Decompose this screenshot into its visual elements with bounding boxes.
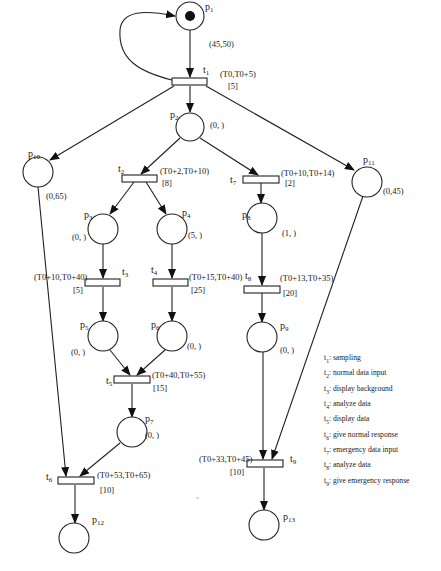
place-p4: [157, 214, 187, 244]
legend-item-t8: t8: analyze data: [324, 459, 410, 474]
duration-t6: [10]: [100, 485, 114, 495]
transition-t7: [243, 176, 279, 183]
interval-p4: (5, ): [188, 230, 202, 240]
window-t7: (T0+10,T0+14): [281, 168, 334, 178]
transition-t6: [58, 477, 94, 484]
legend-item-t5: t5: display data: [324, 413, 410, 428]
window-t6: (T0+53,T0+65): [97, 470, 150, 480]
window-t3: (T0+10,T0+40): [34, 272, 87, 282]
place-p2: [176, 113, 204, 141]
transition-t9: [247, 460, 283, 467]
place-p6: [157, 321, 187, 351]
place-p8: [247, 203, 277, 233]
arc-p10-t6: [38, 187, 66, 476]
duration-t1: [5]: [228, 81, 238, 91]
transition-legend: t1: sampling t2: normal data input t3: d…: [324, 352, 410, 490]
transition-t5: [114, 376, 150, 383]
window-t5: (T0+40,T0+55): [152, 370, 205, 380]
label-p9: p9: [280, 320, 289, 333]
duration-t8: [20]: [283, 288, 297, 298]
window-t1: (T0,T0+5): [220, 69, 256, 79]
window-t9: (T0+33,T0+45): [199, 454, 252, 464]
place-p9: [247, 322, 277, 352]
arc-t2-p3: [110, 182, 134, 214]
interval-p8: (1, ): [282, 228, 296, 238]
window-t4: (T0+15,T0+40): [189, 272, 242, 282]
interval-p3: (0, ): [72, 232, 86, 242]
interval-p2: (0, ): [210, 120, 224, 130]
label-p3: p3: [84, 209, 93, 222]
legend-item-t9: t9: give emergency response: [324, 475, 410, 490]
label-t6: t6: [46, 471, 53, 484]
token-icon: [185, 11, 195, 21]
legend-item-t1: t1: sampling: [324, 352, 410, 367]
label-t3: t3: [122, 266, 129, 279]
interval-p11: (0,45): [383, 186, 404, 196]
duration-t5: [15]: [153, 383, 167, 393]
label-p5: p5: [80, 319, 89, 332]
arc-p5-t5: [110, 350, 130, 375]
transition-t4: [153, 279, 188, 286]
label-p7: p7: [145, 413, 154, 426]
duration-t7: [2]: [285, 178, 295, 188]
interval-p6: (0, ): [187, 341, 201, 351]
label-p12: p12: [92, 514, 105, 527]
interval-p5: (0, ): [71, 347, 85, 357]
duration-t3: [5]: [73, 285, 83, 295]
interval-p7: (0, ): [145, 430, 159, 440]
label-t4: t4: [151, 264, 158, 277]
label-p6: p6: [151, 319, 160, 332]
legend-item-t4: t4: analyze data: [324, 398, 410, 413]
label-t8: t8: [245, 270, 252, 283]
duration-t4: [25]: [191, 285, 205, 295]
legend-item-t2: t2: normal data input: [324, 367, 410, 382]
transition-t3: [85, 279, 120, 286]
duration-t2: [8]: [162, 178, 172, 188]
label-t9: t9: [290, 453, 297, 466]
label-t5: t5: [106, 375, 113, 388]
label-p4: p4: [182, 207, 191, 220]
legend-item-t3: t3: display background: [324, 383, 410, 398]
label-p2: p2: [170, 109, 179, 122]
place-p12: [59, 523, 89, 553]
arc-t1-p1: [120, 13, 175, 80]
place-p3: [88, 214, 118, 244]
transition-t1: [172, 78, 207, 85]
label-p13: p13: [283, 511, 296, 524]
arc-t1-p11: [206, 86, 354, 170]
window-t8: (T0+13,T0+35): [280, 273, 333, 283]
label-p1: p1: [205, 1, 214, 14]
transition-t8: [244, 286, 280, 293]
transition-t2: [122, 175, 157, 182]
place-p7: [117, 417, 147, 447]
label-t2: t2: [118, 163, 125, 176]
duration-t9: [10]: [230, 467, 244, 477]
legend-item-t6: t6: give normal response: [324, 429, 410, 444]
interval-p9: (0, ): [280, 345, 294, 355]
legend-item-t7: t7: emergency data input: [324, 444, 410, 459]
place-p10: [23, 157, 53, 187]
place-p11: [352, 167, 382, 197]
interval-p1: (45,50): [209, 39, 234, 49]
label-t1: t1: [203, 64, 210, 77]
place-p13: [249, 510, 279, 540]
label-t7: t7: [230, 174, 237, 187]
place-p5: [88, 321, 118, 351]
arc-t1-p10: [50, 86, 174, 160]
label-p11: p11: [363, 154, 375, 167]
window-t2: (T0+2,T0+10): [160, 166, 209, 176]
interval-p10: (0,65): [46, 191, 67, 201]
